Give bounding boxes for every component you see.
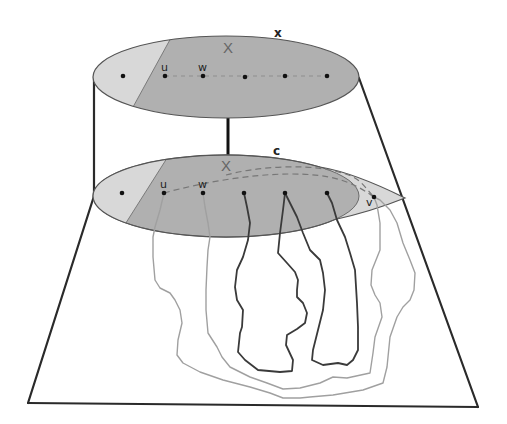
bottom-vertex-u — [162, 191, 167, 196]
bottom-vertex — [242, 191, 247, 196]
bottom-label-u: u — [160, 178, 167, 191]
bottom-label-w: w — [198, 178, 207, 191]
diagram-canvas: u w X x u w v X c — [0, 0, 507, 424]
top-vertex — [243, 75, 248, 80]
top-label-u: u — [161, 61, 168, 74]
right-slanted-edge — [359, 78, 478, 407]
top-vertex-w — [201, 74, 206, 79]
top-vertex — [283, 74, 288, 79]
top-vertex — [325, 74, 330, 79]
top-vertex — [121, 74, 126, 79]
left-slanted-edge — [28, 196, 94, 403]
plane-frame — [28, 77, 478, 407]
top-curve-label: x — [274, 26, 282, 40]
bottom-curve-label: c — [273, 144, 280, 158]
bottom-label-v: v — [366, 196, 373, 209]
top-region-label: X — [223, 39, 233, 56]
top-ellipse: u w X x — [80, 20, 359, 130]
bottom-region-label: X — [221, 157, 231, 174]
bottom-vertex — [120, 191, 125, 196]
bottom-vertex-w — [201, 191, 206, 196]
bottom-ellipse — [70, 145, 405, 245]
bottom-vertex — [283, 191, 288, 196]
bottom-vertex — [325, 191, 330, 196]
top-vertex-u — [163, 74, 168, 79]
bottom-edge — [28, 403, 478, 407]
top-label-w: w — [198, 61, 207, 74]
